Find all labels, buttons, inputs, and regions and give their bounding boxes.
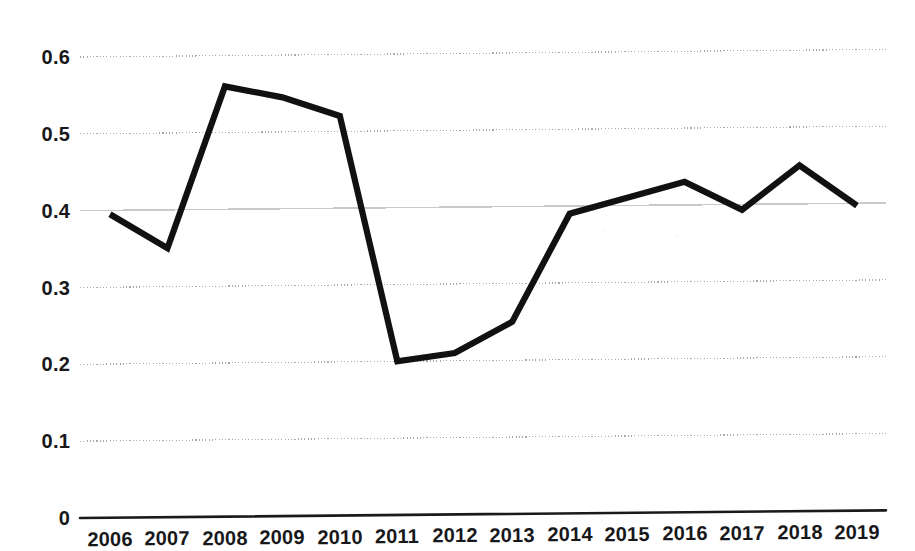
data-line	[110, 86, 857, 361]
gridline-0-3	[80, 280, 886, 288]
gridline-0-2	[80, 357, 886, 365]
line-chart-plot	[0, 0, 915, 551]
x-axis-baseline	[80, 510, 886, 518]
gridline-0-1	[80, 434, 886, 442]
axis-line-zero	[80, 510, 886, 518]
gridline-0-5	[80, 126, 886, 134]
chart-page: 0.60.50.40.30.20.10 20062007200820092010…	[0, 0, 915, 551]
data-series-group	[110, 86, 857, 361]
gridlines-group	[80, 49, 886, 441]
gridline-0-6	[80, 49, 886, 57]
gridline-0-4	[80, 203, 886, 211]
